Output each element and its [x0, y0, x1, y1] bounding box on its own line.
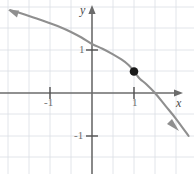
- marked-point: [130, 67, 139, 76]
- x-axis-label: x: [176, 97, 181, 109]
- x-tick-label-positive-one: 1: [132, 97, 138, 108]
- y-axis: [88, 5, 95, 174]
- y-tick-label-negative-one: -1: [74, 130, 83, 141]
- curve-path: [8, 10, 189, 136]
- y-tick-label-positive-one: 1: [79, 44, 85, 55]
- graph-figure: x y -1 1 1 -1: [0, 0, 194, 174]
- coordinate-plane: [0, 0, 194, 174]
- x-tick-label-negative-one: -1: [44, 97, 53, 108]
- y-axis-label: y: [80, 4, 85, 16]
- grid-lines: [0, 0, 194, 174]
